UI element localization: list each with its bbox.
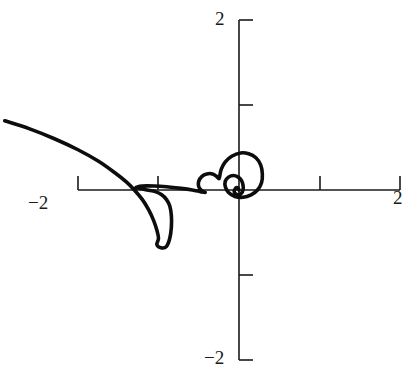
x-axis-tick-label-2: 2: [393, 188, 403, 207]
x-axis-tick-label-minus2: −2: [28, 193, 48, 212]
y-axis-tick-label-minus2: −2: [204, 348, 224, 367]
spiral-plot-figure: 2 −2 −2 2: [0, 0, 409, 381]
plot-canvas: [0, 0, 409, 381]
spiral-curve-path: [5, 121, 263, 248]
y-axis-tick-label-2: 2: [215, 9, 225, 28]
